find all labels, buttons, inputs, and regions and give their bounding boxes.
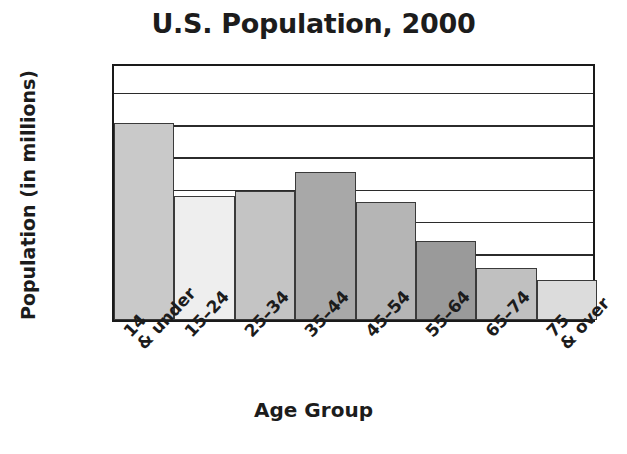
x-axis-tick-labels: 14 & under15–2425–3435–4445–5455–6465–74… xyxy=(0,0,627,454)
x-axis-title: Age Group xyxy=(0,398,627,422)
